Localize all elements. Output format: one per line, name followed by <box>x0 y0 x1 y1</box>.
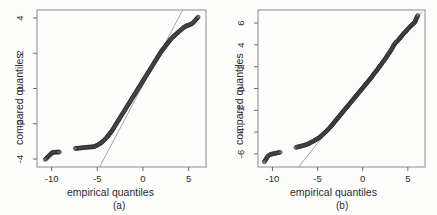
panel-b: compared quantiles empirical quantiles (… <box>218 0 437 215</box>
x-tick-label: -5 <box>298 174 338 184</box>
y-tick-label: 4 <box>235 36 247 54</box>
y-tick-label: 4 <box>14 9 26 27</box>
reference-line-a <box>100 10 183 167</box>
y-tick-label: 6 <box>235 14 247 32</box>
panel-b-x-axis-title: empirical quantiles <box>290 187 377 198</box>
plot-box-a <box>37 10 206 167</box>
panel-b-caption: (b) <box>336 201 348 211</box>
qq-plot-figure: compared quantiles empirical quantiles (… <box>0 0 437 215</box>
y-tick-label: -2 <box>14 115 26 133</box>
reference-line-segment <box>100 10 183 167</box>
y-tick-label: -6 <box>235 145 247 163</box>
x-tick-label: 5 <box>169 174 209 184</box>
plot-box-b <box>258 10 425 167</box>
x-tick-label: -10 <box>32 174 72 184</box>
data-points-b <box>262 14 419 164</box>
data-points-a <box>43 15 200 161</box>
panel-a: compared quantiles empirical quantiles (… <box>0 0 219 215</box>
x-tick-label: -5 <box>77 174 117 184</box>
y-tick-label: -4 <box>14 150 26 168</box>
y-tick-label: -4 <box>235 123 247 141</box>
y-tick-label: 2 <box>14 44 26 62</box>
x-tick-label: 0 <box>123 174 163 184</box>
y-tick-label: 0 <box>235 80 247 98</box>
x-tick-label: -10 <box>252 174 292 184</box>
y-tick-label: 0 <box>14 80 26 98</box>
x-tick-label: 5 <box>388 174 428 184</box>
x-tick-label: 0 <box>343 174 383 184</box>
panel-a-caption: (a) <box>113 201 125 211</box>
y-tick-label: 2 <box>235 58 247 76</box>
y-tick-label: -2 <box>235 101 247 119</box>
panel-a-x-axis-title: empirical quantiles <box>67 187 154 198</box>
